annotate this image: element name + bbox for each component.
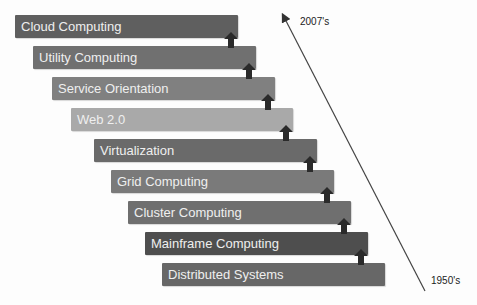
- up-arrow-icon: [279, 125, 293, 141]
- stage-grid-computing: Grid Computing: [111, 170, 334, 193]
- stage-label: Grid Computing: [117, 174, 208, 189]
- era-label-top: 2007's: [300, 16, 329, 27]
- stage-mainframe-computing: Mainframe Computing: [145, 232, 368, 255]
- stage-cloud-computing: Cloud Computing: [15, 15, 238, 38]
- up-arrow-icon: [354, 249, 368, 265]
- stage-label: Utility Computing: [39, 50, 137, 65]
- up-arrow-icon: [303, 156, 317, 172]
- stage-label: Virtualization: [100, 143, 174, 158]
- stage-web-2-0: Web 2.0: [71, 108, 293, 131]
- up-arrow-icon: [337, 218, 351, 234]
- up-arrow-icon: [261, 94, 275, 110]
- stage-label: Distributed Systems: [168, 267, 284, 282]
- stage-distributed-systems: Distributed Systems: [162, 263, 385, 286]
- up-arrow-icon: [320, 187, 334, 203]
- stage-cluster-computing: Cluster Computing: [128, 201, 351, 224]
- stage-label: Service Orientation: [58, 81, 169, 96]
- stage-virtualization: Virtualization: [94, 139, 317, 162]
- stage-label: Web 2.0: [77, 112, 125, 127]
- stage-service-orientation: Service Orientation: [52, 77, 275, 100]
- stage-label: Mainframe Computing: [151, 236, 279, 251]
- stage-utility-computing: Utility Computing: [33, 46, 256, 69]
- era-label-bottom: 1950's: [431, 275, 460, 286]
- up-arrow-icon: [242, 63, 256, 79]
- up-arrow-icon: [224, 32, 238, 48]
- stage-label: Cluster Computing: [134, 205, 242, 220]
- stage-label: Cloud Computing: [21, 19, 121, 34]
